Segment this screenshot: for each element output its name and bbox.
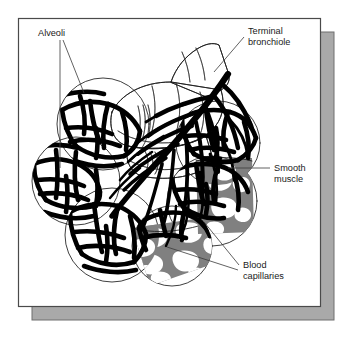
label-alveoli: Alveoli [38, 28, 65, 38]
label-terminal-bronchiole-line2: bronchiole [248, 37, 290, 47]
label-blood-capillaries-line1: Blood [243, 260, 267, 270]
alveoli-illustration: Alveoli Terminal bronchiole Smooth muscl… [0, 0, 350, 339]
figure-root: Alveoli Terminal bronchiole Smooth muscl… [0, 0, 350, 339]
label-terminal-bronchiole-line1: Terminal [248, 26, 283, 36]
label-smooth-muscle-line2: muscle [274, 174, 303, 184]
label-smooth-muscle-line1: Smooth [274, 163, 306, 173]
label-blood-capillaries-line2: capillaries [243, 271, 284, 281]
